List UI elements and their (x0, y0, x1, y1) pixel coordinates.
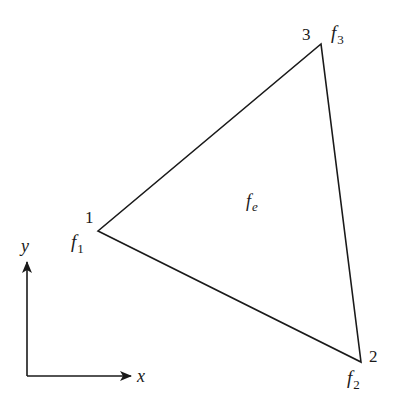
triangle-element-diagram: 3 f3 1 f1 2 f2 fe y x (0, 0, 401, 407)
element-function-label: fe (246, 191, 258, 214)
vertex-1-number: 1 (85, 208, 94, 227)
vertex-3-number: 3 (302, 25, 311, 44)
y-axis-label: y (19, 236, 29, 256)
vertex-3-function-label: f3 (331, 22, 344, 47)
vertex-1-function-label: f1 (71, 231, 84, 256)
vertex-2-function-label: f2 (347, 367, 360, 392)
triangle-element (98, 44, 361, 362)
vertex-2-number: 2 (369, 347, 378, 366)
x-axis-label: x (136, 366, 145, 386)
